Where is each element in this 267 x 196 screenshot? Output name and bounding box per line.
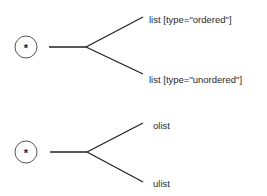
branch-label-ordered: list [type="ordered"]	[149, 14, 232, 25]
branch-label-olist: olist	[153, 120, 170, 131]
tree-diagram-list-type: * list [type="ordered"] list [type="unor…	[15, 14, 242, 85]
root-symbol: *	[24, 42, 29, 54]
branch-edge-upper	[87, 123, 143, 152]
branch-edge-upper	[86, 17, 143, 47]
root-symbol: *	[24, 147, 29, 159]
branch-label-unordered: list [type="unordered"]	[149, 74, 242, 85]
branch-label-ulist: ulist	[153, 178, 170, 189]
tree-diagrams: * list [type="ordered"] list [type="unor…	[0, 0, 267, 196]
branch-edge-lower	[86, 47, 143, 74]
branch-edge-lower	[87, 152, 143, 182]
tree-diagram-olist-ulist: * olist ulist	[15, 120, 170, 189]
